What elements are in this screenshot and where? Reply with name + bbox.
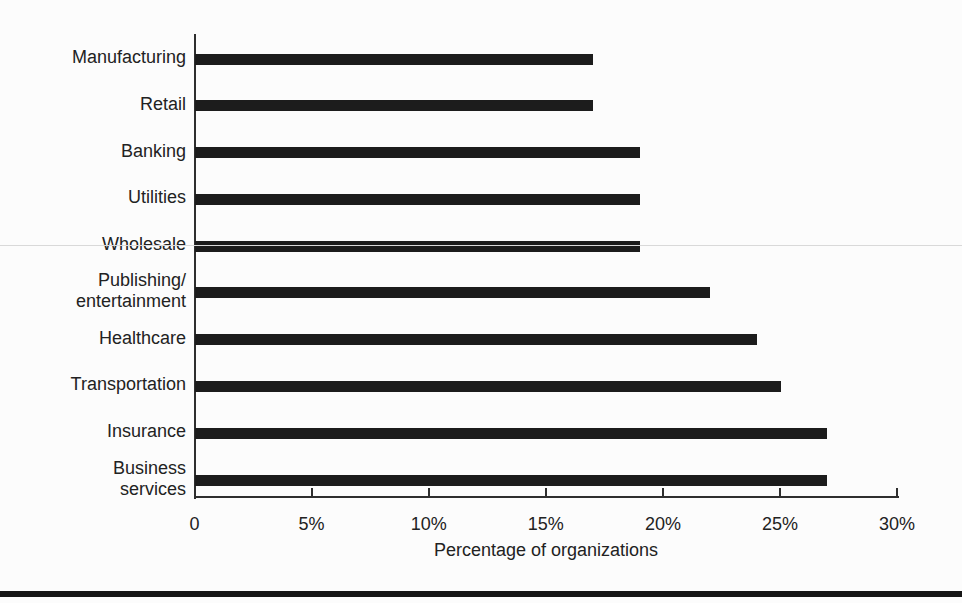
x-tick-5pct — [311, 488, 313, 496]
bar-healthcare — [195, 334, 757, 345]
category-label-retail: Retail — [0, 94, 186, 115]
bar-insurance — [195, 428, 827, 439]
category-label-insurance: Insurance — [0, 421, 186, 442]
x-tick-30pct — [896, 488, 898, 496]
bottom-page-rule — [0, 591, 962, 597]
x-tick-15pct — [545, 488, 547, 496]
bar-wholesale — [195, 241, 640, 252]
category-label-utilities: Utilities — [0, 187, 186, 208]
x-axis-line — [194, 496, 899, 498]
bar-retail — [195, 100, 593, 111]
x-tick-label-30pct: 30% — [857, 514, 937, 535]
category-label-transportation: Transportation — [0, 374, 186, 395]
x-tick-label-5pct: 5% — [272, 514, 352, 535]
scan-artifact-line — [0, 245, 962, 246]
x-tick-label-25pct: 25% — [740, 514, 820, 535]
x-tick-label-20pct: 20% — [623, 514, 703, 535]
x-tick-label-0: 0 — [155, 514, 235, 535]
x-tick-label-10pct: 10% — [389, 514, 469, 535]
bar-publishing-entertainment — [195, 287, 710, 298]
x-tick-10pct — [428, 488, 430, 496]
category-label-healthcare: Healthcare — [0, 328, 186, 349]
x-tick-25pct — [779, 488, 781, 496]
x-tick-label-15pct: 15% — [506, 514, 586, 535]
scanned-bar-chart-figure: 05%10%15%20%25%30%ManufacturingRetailBan… — [0, 0, 962, 603]
x-tick-20pct — [662, 488, 664, 496]
bar-utilities — [195, 194, 640, 205]
bar-manufacturing — [195, 54, 593, 65]
category-label-banking: Banking — [0, 141, 186, 162]
category-label-manufacturing: Manufacturing — [0, 47, 186, 68]
x-axis-title: Percentage of organizations — [346, 540, 746, 561]
category-label-business-services: Business services — [0, 458, 186, 500]
bar-business-services — [195, 475, 827, 486]
bar-chart-plot: 05%10%15%20%25%30%ManufacturingRetailBan… — [0, 0, 962, 603]
bar-transportation — [195, 381, 781, 392]
bar-banking — [195, 147, 640, 158]
category-label-publishing-entertainment: Publishing/ entertainment — [0, 270, 186, 312]
